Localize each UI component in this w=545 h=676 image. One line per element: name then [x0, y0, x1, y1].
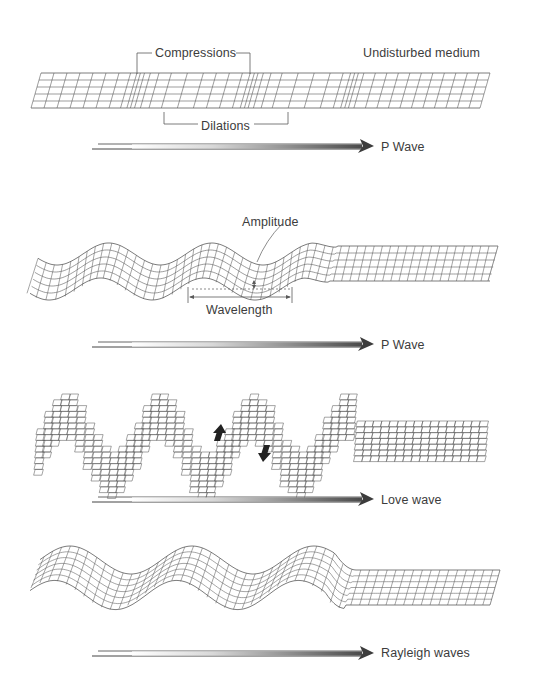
dilations-label: Dilations [201, 119, 250, 133]
undisturbed-medium-label: Undisturbed medium [363, 46, 480, 60]
wavelength-label: Wavelength [206, 303, 273, 317]
seismic-waves-diagram [0, 0, 545, 676]
love-wave-arrow-label: Love wave [381, 493, 442, 507]
p-wave-arrow-label-2: P Wave [381, 338, 425, 352]
amplitude-label: Amplitude [242, 215, 299, 229]
love-wave-panel [34, 394, 489, 498]
rayleigh-wave-panel [30, 546, 500, 610]
p-wave-compression-panel [31, 73, 490, 108]
compressions-label: Compressions [155, 46, 236, 60]
p-wave-arrow-label: P Wave [381, 140, 425, 154]
rayleigh-wave-arrow-label: Rayleigh waves [381, 646, 470, 660]
s-wave-amplitude-panel [27, 243, 498, 300]
